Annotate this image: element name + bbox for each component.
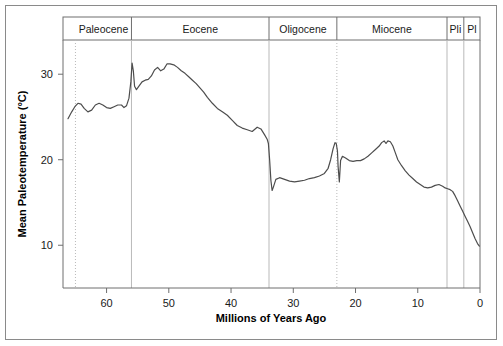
epoch-label-paleocene: Paleocene	[79, 23, 129, 35]
epoch-label-pliocene: Pli	[450, 23, 462, 35]
epoch-label-miocene: Miocene	[372, 23, 412, 35]
figure-page: PaleoceneEoceneOligoceneMiocenePliPl 605…	[0, 0, 503, 346]
y-tick-label: 30	[41, 68, 53, 80]
epoch-label-oligocene: Oligocene	[279, 23, 326, 35]
paleotemperature-chart: PaleoceneEoceneOligoceneMiocenePliPl 605…	[0, 0, 503, 346]
x-tick-label: 0	[477, 297, 483, 309]
epoch-label-eocene: Eocene	[182, 23, 218, 35]
x-tick-label: 20	[349, 297, 361, 309]
y-axis-title: Mean Paleotemperature (°C)	[16, 90, 28, 237]
y-axis-ticks: 102030	[41, 68, 63, 251]
paleotemperature-curve	[68, 63, 479, 246]
x-axis-ticks: 6050403020100	[100, 288, 483, 309]
x-tick-label: 10	[412, 297, 424, 309]
y-tick-label: 10	[41, 239, 53, 251]
y-tick-label: 20	[41, 154, 53, 166]
x-tick-label: 30	[287, 297, 299, 309]
x-tick-label: 60	[100, 297, 112, 309]
plot-axes-frame	[63, 40, 480, 288]
epoch-label-pleistocene: Pl	[467, 23, 476, 35]
epoch-band-strip: PaleoceneEoceneOligoceneMiocenePliPl	[63, 17, 480, 40]
x-tick-label: 50	[163, 297, 175, 309]
x-tick-label: 40	[225, 297, 237, 309]
x-axis-title: Millions of Years Ago	[216, 312, 327, 324]
